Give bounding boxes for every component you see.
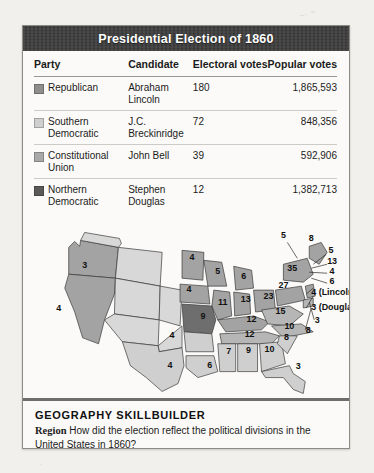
map-vote-label: 4 <box>170 330 175 340</box>
cell-popular-votes: 1,382,713 <box>268 179 337 213</box>
party-name: Constitutional Union <box>48 150 128 173</box>
cell-popular-votes: 1,865,593 <box>268 77 337 111</box>
party-name: Southern Democratic <box>48 116 128 139</box>
cell-electoral-votes: 72 <box>193 111 268 145</box>
map-state-louisiana <box>186 356 218 378</box>
map-vote-label: 7 <box>226 346 231 356</box>
page-showthrough-mark: _. ~ <box>300 8 316 17</box>
map-callout-label: 4 <box>330 266 335 276</box>
column-header-candidate: Candidate <box>128 58 193 77</box>
cell-party: Northern Democratic <box>34 179 128 213</box>
cell-candidate: J.C. Breckinridge <box>128 111 193 145</box>
party-color-swatch <box>34 186 44 196</box>
cell-party: Republican <box>34 77 128 111</box>
map-state-iowa <box>180 284 210 304</box>
table-row: Constitutional UnionJohn Bell39592,906 <box>34 145 337 179</box>
map-callout-label: 5 <box>329 245 334 255</box>
cell-candidate: Stephen Douglas <box>128 179 193 213</box>
map-callout-label: 3 <box>315 315 320 325</box>
cell-candidate: Abraham Lincoln <box>128 77 193 111</box>
figure-title-bar: Presidential Election of 1860 <box>23 26 349 51</box>
party-name: Republican <box>48 82 98 94</box>
map-vote-label: 4 <box>186 284 191 294</box>
map-state-missouri <box>182 304 216 334</box>
map-vote-label: 35 <box>287 263 297 273</box>
map-vote-label: 23 <box>264 291 274 301</box>
map-vote-label: 9 <box>200 311 205 321</box>
map-callout-label: 3 (Douglas) <box>311 302 349 312</box>
party-color-swatch <box>34 118 44 128</box>
map-callout-leader-line <box>311 264 327 268</box>
cell-electoral-votes: 180 <box>193 77 268 111</box>
geography-skillbuilder-caption: GEOGRAPHY SKILLBUILDER Region How did th… <box>23 401 349 461</box>
party-color-swatch <box>34 84 44 94</box>
map-vote-label: 8 <box>284 332 289 342</box>
map-state-california <box>65 274 116 344</box>
map-callout-leader-line <box>287 242 297 258</box>
table-row: Southern DemocraticJ.C. Breckinridge7284… <box>34 111 337 145</box>
map-vote-label: 10 <box>284 321 294 331</box>
map-vote-label: 9 <box>246 345 251 355</box>
table-body: RepublicanAbraham Lincoln1801,865,593Sou… <box>34 77 337 213</box>
map-vote-label: 6 <box>207 360 212 370</box>
map-callout-leader-line <box>311 278 327 283</box>
map-state-shapes <box>65 232 327 393</box>
column-header-party: Party <box>34 58 128 77</box>
map-vote-label: 4 <box>168 360 173 370</box>
map-vote-label: 3 <box>82 260 87 270</box>
map-vote-label: 12 <box>245 329 255 339</box>
map-callout-label: 6 <box>330 276 335 286</box>
cell-electoral-votes: 12 <box>193 179 268 213</box>
map-vote-label: 13 <box>241 294 251 304</box>
map-state-new-england <box>309 242 327 264</box>
election-results-table: Party Candidate Electoral votes Popular … <box>34 58 337 212</box>
cell-electoral-votes: 39 <box>193 145 268 179</box>
map-vote-label: 5 <box>215 266 220 276</box>
map-vote-label: 6 <box>241 271 246 281</box>
election-results-table-wrapper: Party Candidate Electoral votes Popular … <box>23 51 349 212</box>
map-vote-label: 4 <box>189 252 194 262</box>
election-figure: Presidential Election of 1860 Party Cand… <box>22 25 350 449</box>
electoral-map-svg: 3445641113239121215102735446791083 58513… <box>23 216 349 398</box>
map-callout-label: 8 <box>306 325 311 335</box>
map-vote-label: 3 <box>296 361 301 371</box>
cell-candidate: John Bell <box>128 145 193 179</box>
party-color-swatch <box>34 152 44 162</box>
figure-title: Presidential Election of 1860 <box>98 32 273 46</box>
map-callout-label: 5 <box>281 230 286 240</box>
map-vote-label: 12 <box>247 314 257 324</box>
map-state-texas <box>122 342 184 392</box>
map-vote-label: 10 <box>265 344 275 354</box>
electoral-map: 3445641113239121215102735446791083 58513… <box>23 216 349 398</box>
textbook-page: _. ~ ~ ·-- , · - ... .. ·- 2 1 ·' 2 . Pr… <box>0 0 374 473</box>
map-vote-label: 27 <box>278 280 288 290</box>
map-state-arkansas <box>184 332 214 352</box>
cell-party: Constitutional Union <box>34 145 128 179</box>
table-row: RepublicanAbraham Lincoln1801,865,593 <box>34 77 337 111</box>
column-header-electoral-votes: Electoral votes <box>193 58 268 77</box>
map-vote-label: 15 <box>275 306 285 316</box>
column-header-popular-votes: Popular votes <box>268 58 337 77</box>
map-callout-label: 13 <box>327 256 337 266</box>
map-state-territory-east-of-utah <box>159 286 182 326</box>
map-vote-label: 4 <box>56 303 61 313</box>
caption-question: How did the election reflect the politic… <box>35 425 311 450</box>
cell-party: Southern Democratic <box>34 111 128 145</box>
map-state-territory-southwest <box>105 314 160 346</box>
table-header-row: Party Candidate Electoral votes Popular … <box>34 58 337 77</box>
map-callout-label: 4 (Lincoln) <box>311 287 349 297</box>
caption-body: Region How did the election reflect the … <box>35 424 337 451</box>
cell-popular-votes: 848,356 <box>268 111 337 145</box>
caption-region-label: Region <box>35 425 67 436</box>
map-callout-label: 8 <box>309 233 314 243</box>
party-name: Northern Democratic <box>48 184 128 207</box>
map-state-kentucky <box>218 316 270 332</box>
cell-popular-votes: 592,906 <box>268 145 337 179</box>
map-vote-label: 11 <box>218 297 227 307</box>
caption-heading: GEOGRAPHY SKILLBUILDER <box>35 409 337 421</box>
table-row: Northern DemocraticStephen Douglas121,38… <box>34 179 337 213</box>
